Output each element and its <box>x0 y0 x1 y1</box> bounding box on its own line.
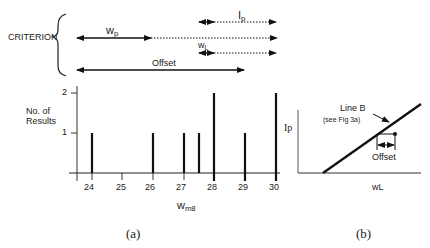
x-tick-28: 28 <box>207 183 217 192</box>
caption-a: (a) <box>126 227 140 240</box>
x-tick-24: 24 <box>84 183 94 192</box>
wl-axis-label: wL <box>372 183 384 192</box>
caption-b: (b) <box>356 227 371 240</box>
wp-label: wp <box>106 25 118 38</box>
wl-label: wL <box>198 41 208 51</box>
line-b-note: (see Fig 3a) <box>323 116 360 123</box>
figure: CRITERION Ip wp wL Offset No. of Results… <box>0 0 430 248</box>
y-tick-2: 2 <box>62 88 67 97</box>
x-axis-label: wm8 <box>177 200 196 213</box>
y-axis-label-line1: No. of <box>26 107 50 116</box>
x-tick-30: 30 <box>269 183 279 192</box>
line-b-label: Line B <box>340 104 366 113</box>
brace-icon <box>52 14 66 76</box>
ip-axis-label: Ip <box>284 123 292 133</box>
ip-label: Ip <box>238 10 245 23</box>
offset-label-b: Offset <box>372 153 396 162</box>
bars <box>92 93 276 181</box>
offset-label: Offset <box>152 59 176 68</box>
y-axis-label-line2: Results <box>26 117 56 126</box>
criterion-label: CRITERION <box>8 33 58 42</box>
x-tick-29: 29 <box>238 183 248 192</box>
y-tick-1: 1 <box>62 128 67 137</box>
x-tick-27: 27 <box>176 183 186 192</box>
x-tick-25: 25 <box>116 183 126 192</box>
x-tick-26: 26 <box>145 183 155 192</box>
diagram-graphics <box>0 0 430 248</box>
